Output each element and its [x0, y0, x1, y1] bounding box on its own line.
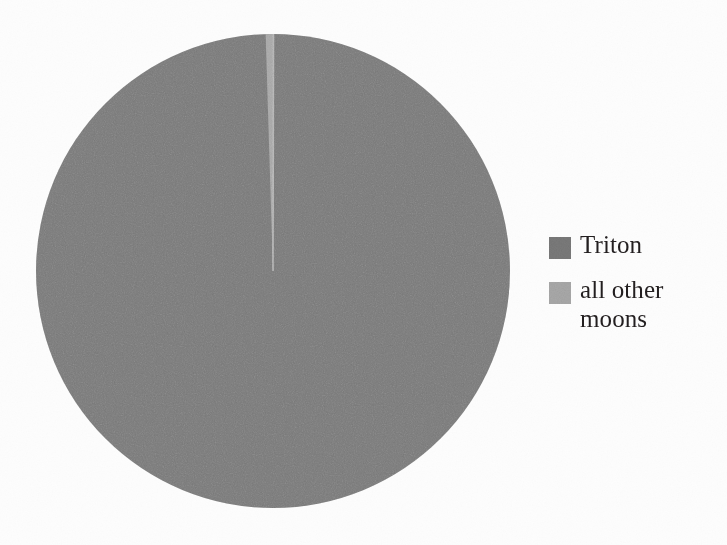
pie-grain-overlay — [0, 0, 545, 545]
legend-label-triton: Triton — [580, 230, 642, 259]
legend-swatch-all-other-moons — [549, 282, 571, 304]
chart-legend: Triton all other moons — [549, 230, 719, 349]
chart-plot-area — [0, 0, 545, 545]
legend-item-all-other-moons[interactable]: all other moons — [549, 275, 719, 333]
pie-chart-figure: Triton all other moons — [0, 0, 727, 545]
legend-label-all-other-moons: all other moons — [580, 275, 664, 333]
legend-item-triton[interactable]: Triton — [549, 230, 719, 259]
pie-chart-svg — [0, 0, 545, 545]
legend-swatch-triton — [549, 237, 571, 259]
